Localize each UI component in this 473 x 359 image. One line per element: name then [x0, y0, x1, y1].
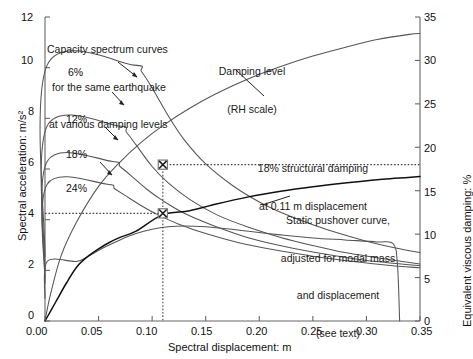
annotation-push-line2: adjusted for modal mass [262, 252, 414, 265]
xtick-label-0.35: 0.35 [411, 325, 432, 337]
annotation-capacity-line1: Capacity spectrum curves [47, 43, 168, 56]
ytick-label-6: 6 [28, 156, 34, 168]
y2tick-label-35: 35 [424, 11, 436, 23]
xtick-label-0.15: 0.15 [191, 325, 212, 337]
xtick-label-0.00: 0.00 [26, 325, 47, 337]
annotation-capacity-spectrum: Capacity spectrum curves for the same ea… [47, 18, 168, 156]
annotation-capacity-line3: at various damping levels [47, 118, 168, 131]
y-axis-title: Spectral acceleration: m/s² [16, 111, 28, 241]
ytick-label-8: 8 [28, 105, 34, 117]
annotation-push-line4: (see text) [262, 327, 414, 340]
ytick-label-12: 12 [21, 11, 33, 23]
ytick-label-2: 2 [28, 258, 34, 270]
annotation-damping-line1: Damping level [206, 65, 298, 78]
annotation-push-line1: Static pushover curve, [262, 214, 414, 227]
y2tick-label-5: 5 [424, 273, 430, 285]
ytick-label-4: 4 [28, 207, 34, 219]
y2tick-label-30: 30 [424, 54, 436, 66]
annotation-capacity-line2: for the same earthquake [47, 81, 168, 94]
curve-label-24pct: 24% [66, 182, 87, 194]
ytick-label-10: 10 [21, 54, 33, 66]
annotation-damping-line2: (RH scale) [206, 103, 298, 116]
xtick-label-0.05: 0.05 [81, 325, 102, 337]
xtick-label-0.10: 0.10 [136, 325, 157, 337]
y2-axis-title: Equivalent viscous damping: % [461, 175, 473, 327]
annotation-damping-level: Damping level (RH scale) [206, 40, 298, 140]
annotation-push-line3: and displacement [262, 289, 414, 302]
y2tick-label-25: 25 [424, 98, 436, 110]
y2tick-label-15: 15 [424, 186, 436, 198]
y2tick-label-20: 20 [424, 142, 436, 154]
y2tick-label-10: 10 [424, 229, 436, 241]
annotation-struct-line1: 18% structural damping [230, 162, 396, 175]
annotation-pushover: Static pushover curve, adjusted for moda… [262, 189, 414, 359]
ytick-label-0: 0 [28, 309, 34, 321]
